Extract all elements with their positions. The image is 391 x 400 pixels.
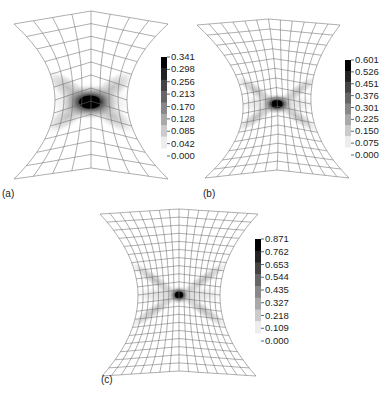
colorbar-tick-label: 0.218 [265, 311, 289, 321]
colorbar-tick-label: 0.653 [265, 260, 289, 270]
colorbar-tick-label: 0.075 [355, 138, 379, 148]
colorbar-tick-label: 0.544 [265, 272, 289, 282]
colorbar-tick-label: 0.601 [355, 55, 379, 65]
mesh-canvas [0, 0, 391, 400]
colorbar-tick-label: 0.298 [171, 64, 195, 74]
colorbar-tick-label: 0.150 [355, 126, 379, 136]
colorbar-tick-label: 0.170 [171, 102, 195, 112]
mesh-panel-a [14, 11, 168, 179]
colorbar-tick-label: 0.225 [355, 114, 379, 124]
colorbar-gradient-a [161, 57, 170, 156]
colorbar-tick-label: 0.301 [355, 103, 379, 113]
colorbar-tick-label: 0.042 [171, 139, 195, 149]
colorbar-tick-label: 0.376 [355, 91, 379, 101]
colorbar-tick-label: 0.762 [265, 247, 289, 257]
colorbar-tick-label: 0.000 [355, 150, 379, 160]
figure: (a) 0.3410.2980.2560.2130.1700.1280.0850… [0, 0, 391, 400]
colorbar-tick-label: 0.341 [171, 52, 195, 62]
stress-field-b [232, 71, 322, 136]
colorbar-tick-label: 0.327 [265, 298, 289, 308]
colorbar-gradient-c [255, 239, 264, 341]
panel-label-b: (b) [203, 188, 215, 199]
colorbar-tick-label: 0.526 [355, 67, 379, 77]
colorbar-tick-label: 0.000 [265, 336, 289, 346]
panel-label-c: (c) [101, 374, 113, 385]
mesh-grid-a [14, 11, 168, 179]
panel-label-a: (a) [2, 188, 14, 199]
colorbar-tick-label: 0.451 [355, 79, 379, 89]
colorbar-tick-label: 0.000 [171, 151, 195, 161]
colorbar-tick-label: 0.085 [171, 126, 195, 136]
mesh-grid-c [100, 209, 258, 376]
colorbar-tick-label: 0.871 [265, 234, 289, 244]
colorbar-tick-label: 0.213 [171, 89, 195, 99]
colorbar-tick-label: 0.256 [171, 77, 195, 87]
colorbar-gradient-b [345, 60, 354, 155]
mesh-panel-b [197, 19, 349, 178]
colorbar-tick-label: 0.109 [265, 323, 289, 333]
mesh-panel-c [100, 209, 258, 376]
colorbar-tick-label: 0.128 [171, 114, 195, 124]
colorbar-tick-label: 0.435 [265, 285, 289, 295]
